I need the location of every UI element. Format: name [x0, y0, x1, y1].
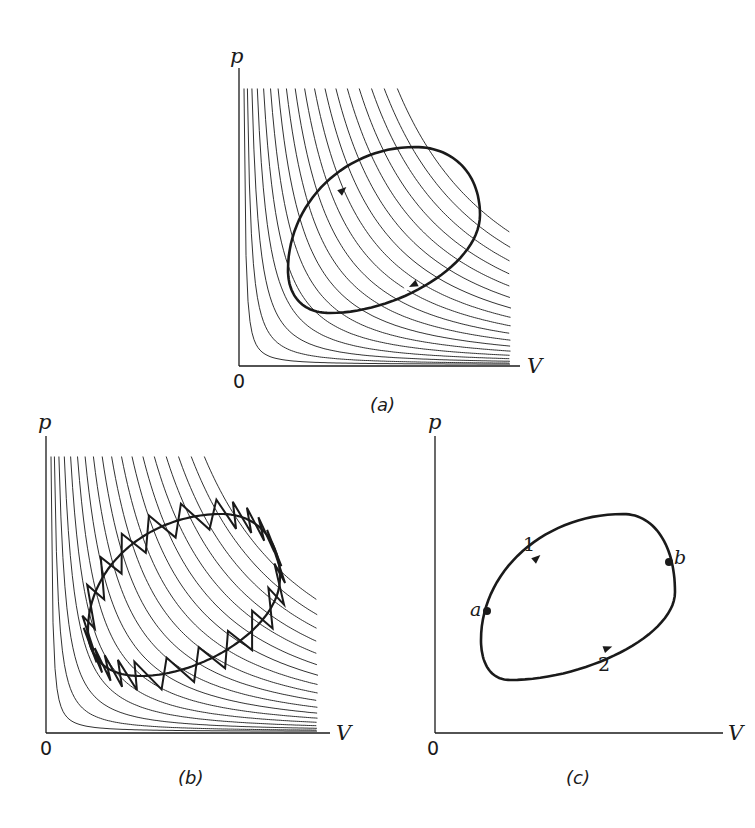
- adiabat-curve: [257, 89, 509, 359]
- state-point-a: [483, 607, 491, 615]
- adiabat-curve: [347, 89, 509, 287]
- adiabat-curve: [372, 89, 510, 261]
- state-b-label: b: [674, 548, 686, 567]
- path-1-label: 1: [523, 535, 535, 554]
- adiabat-curve: [122, 457, 318, 685]
- adiabat-curve: [154, 457, 316, 654]
- panel-b-y-axis-label: p: [38, 412, 51, 433]
- adiabat-curve: [78, 457, 318, 719]
- adiabat-curve: [336, 89, 510, 298]
- cycle-loop: [481, 514, 675, 680]
- adiabat-curve: [132, 457, 318, 676]
- adiabat-curve: [397, 89, 509, 232]
- adiabat-curve: [286, 89, 510, 341]
- panel-a-caption: (a): [370, 396, 395, 414]
- adiabat-curve: [191, 457, 317, 615]
- panel-b-zigzag-cycle: [46, 436, 330, 733]
- panel-b-origin-label: 0: [40, 739, 52, 758]
- panel-c-two-path-cycle: [435, 436, 723, 733]
- adiabat-curve: [252, 89, 510, 362]
- panel-b-caption: (b): [178, 769, 203, 787]
- path-2-label: 2: [598, 655, 610, 674]
- adiabat-curve: [384, 89, 510, 248]
- panel-c-caption: (c): [566, 769, 590, 787]
- adiabat-curve: [244, 89, 510, 365]
- arrow-gap: [542, 552, 545, 554]
- panel-b-x-axis-label: V: [336, 723, 351, 744]
- panel-a-origin-label: 0: [233, 372, 245, 391]
- panel-a-reversible-cycle: [239, 68, 520, 366]
- panel-a-y-axis-label: p: [230, 46, 243, 67]
- zigzag-approximation-path: [82, 500, 285, 690]
- arrow-gap: [348, 184, 351, 186]
- path-2-arrow-icon: [603, 646, 613, 653]
- state-a-label: a: [470, 600, 481, 619]
- adiabat-curve: [325, 89, 511, 309]
- panel-c-x-axis-label: V: [728, 723, 743, 744]
- arrow-gap: [614, 645, 617, 646]
- reversible-cycle-loop: [288, 147, 480, 313]
- arrow-up-right-icon: [337, 187, 346, 196]
- adiabat-curve: [315, 89, 511, 318]
- state-point-b: [665, 558, 673, 566]
- panel-a-x-axis-label: V: [527, 356, 542, 377]
- arrow-gap: [404, 288, 407, 290]
- panel-c-y-axis-label: p: [428, 412, 441, 433]
- adiabat-curve: [271, 89, 511, 352]
- panel-c-origin-label: 0: [427, 739, 439, 758]
- adiabat-curve: [179, 457, 317, 629]
- adiabat-curve: [247, 89, 509, 364]
- path-1-arrow-icon: [531, 555, 540, 564]
